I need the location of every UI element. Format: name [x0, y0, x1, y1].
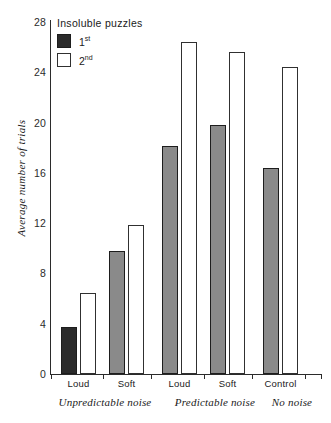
x-axis-tick-1 [103, 374, 104, 379]
legend-title: Insoluble puzzles [57, 17, 143, 29]
y-axis-tick-labels: 0 4 8 12 16 20 24 28 [0, 0, 46, 423]
y-tick-label: 0 [40, 368, 46, 380]
y-tick-label: 4 [40, 318, 46, 330]
x-tick-label-1: Soft [118, 378, 136, 389]
x-tick-label-0: Loud [68, 378, 90, 389]
bar-first-0 [61, 327, 77, 374]
bar-second-2 [181, 42, 197, 375]
bar-second-3 [229, 52, 245, 374]
legend: Insoluble puzzles 1st 2nd [57, 17, 143, 72]
plot-area [51, 20, 322, 374]
bar-first-3 [210, 125, 226, 374]
x-axis-tick-2 [151, 374, 152, 379]
x-tick-label-3: Soft [219, 378, 237, 389]
bar-second-1 [128, 225, 144, 374]
x-tick-label-2: Loud [169, 378, 191, 389]
x-tick-label-4: Control [264, 378, 296, 389]
y-tick-label: 12 [34, 217, 46, 229]
legend-label-second: 2nd [79, 54, 93, 67]
x-axis-tick-3 [204, 374, 205, 379]
bar-chart: Average number of trials 0 4 8 12 16 20 … [0, 0, 331, 423]
x-axis-tick-6 [321, 374, 322, 379]
y-tick-label: 28 [34, 16, 46, 28]
x-group-label-0: Unpredictable noise [59, 396, 152, 408]
x-axis-tick-4 [252, 374, 253, 379]
legend-item-second: 2nd [57, 53, 143, 67]
bar-second-0 [80, 293, 96, 374]
x-group-label-2: No noise [272, 396, 312, 408]
x-group-label-1: Predictable noise [175, 396, 255, 408]
legend-label-first: 1st [79, 35, 90, 48]
x-axis-tick-5 [305, 374, 306, 379]
y-tick-label: 16 [34, 167, 46, 179]
y-tick-label: 8 [40, 267, 46, 279]
y-tick-label: 20 [34, 117, 46, 129]
bar-first-1 [109, 251, 125, 374]
legend-item-first: 1st [57, 34, 143, 48]
bar-first-4 [263, 168, 279, 374]
bar-first-2 [162, 146, 178, 374]
legend-swatch-first-icon [57, 34, 71, 48]
bar-second-4 [282, 67, 298, 374]
x-axis-line [50, 374, 322, 375]
legend-swatch-second-icon [57, 53, 71, 67]
x-axis-tick-0 [51, 374, 52, 379]
y-tick-label: 24 [34, 66, 46, 78]
